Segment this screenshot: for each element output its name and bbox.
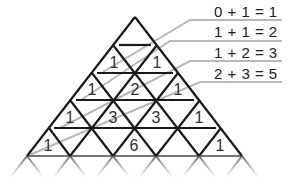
cell-r1-c1: 1 <box>153 55 162 71</box>
cell-r2-c0: 1 <box>88 82 97 98</box>
cell-r3-c2: 3 <box>152 110 161 126</box>
cell-r4-c2: 6 <box>130 138 139 154</box>
equation-2: 1 + 1 = 2 <box>214 24 278 40</box>
fibonacci-diagonals <box>27 20 282 156</box>
fading-extension <box>10 156 259 178</box>
cell-r4-c0: 1 <box>44 138 53 154</box>
cell-r3-c1: 3 <box>109 110 118 126</box>
cell-r2-c2: 1 <box>174 82 183 98</box>
cell-r1-c0: 1 <box>110 55 119 71</box>
cell-r3-c3: 1 <box>195 110 204 126</box>
cell-r2-c1: 2 <box>131 82 140 98</box>
cell-r4-c4: 1 <box>216 138 225 154</box>
equation-4: 2 + 3 = 5 <box>214 66 278 82</box>
cell-r3-c0: 1 <box>66 110 75 126</box>
pascal-fibonacci-diagram: 0 + 1 = 1 1 + 1 = 2 1 + 2 = 3 2 + 3 = 5 … <box>0 0 298 184</box>
equation-1: 0 + 1 = 1 <box>214 4 278 20</box>
equation-3: 1 + 2 = 3 <box>214 45 278 61</box>
